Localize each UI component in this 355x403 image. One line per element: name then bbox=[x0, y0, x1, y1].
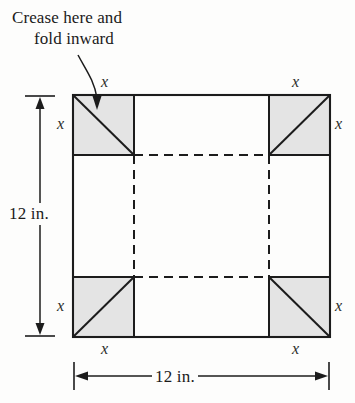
crease-callout-arrow bbox=[78, 55, 97, 98]
box-folding-diagram bbox=[0, 0, 355, 403]
x-label-top-left-top: x bbox=[101, 74, 108, 90]
dimension-arrowhead-up bbox=[36, 97, 45, 109]
figure-container: Crease here and fold inward 12 in. 12 in… bbox=[0, 0, 355, 403]
x-label-bottom-right-bottom: x bbox=[292, 341, 299, 357]
x-label-top-left-side: x bbox=[57, 116, 64, 132]
dimension-arrowhead-left bbox=[75, 372, 88, 381]
caption-line-1: Crease here and bbox=[8, 8, 218, 29]
vertical-dimension-label: 12 in. bbox=[6, 203, 52, 225]
crease-instruction-caption: Crease here and fold inward bbox=[8, 8, 218, 49]
caption-line-2: fold inward bbox=[8, 29, 218, 50]
dimension-arrowhead-right bbox=[315, 372, 328, 381]
dimension-arrowhead-down bbox=[36, 323, 45, 335]
x-label-bottom-right-side: x bbox=[335, 298, 342, 314]
x-label-bottom-left-bottom: x bbox=[101, 341, 108, 357]
horizontal-dimension-label: 12 in. bbox=[152, 366, 198, 388]
x-label-top-right-top: x bbox=[292, 74, 299, 90]
x-label-top-right-side: x bbox=[335, 116, 342, 132]
x-label-bottom-left-side: x bbox=[57, 298, 64, 314]
